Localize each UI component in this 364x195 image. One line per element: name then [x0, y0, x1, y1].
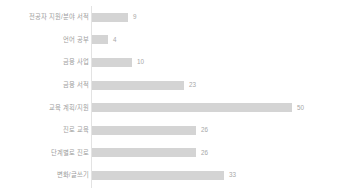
category-label: 언어 공부 — [0, 36, 89, 44]
bar-rows: 전공자 지원/분야 서적 9 언어 공부 4 금융 사업 10 — [0, 6, 364, 187]
bar — [92, 13, 128, 22]
plot-area: 전공자 지원/분야 서적 9 언어 공부 4 금융 사업 10 — [0, 0, 364, 195]
bar-track: 4 — [92, 29, 364, 52]
category-label: 단계별로 진로 — [0, 149, 89, 157]
bar-row: 변화/글쓰기 33 — [0, 164, 364, 187]
bar-track: 33 — [92, 164, 364, 187]
bar — [92, 103, 292, 112]
category-label: 변화/글쓰기 — [0, 171, 89, 179]
bar-track: 26 — [92, 119, 364, 142]
bar-row: 단계별로 진로 26 — [0, 142, 364, 165]
category-label: 교육 계획/지원 — [0, 104, 89, 112]
bar — [92, 58, 132, 67]
bar-value-label: 9 — [133, 13, 137, 21]
bar-value-label: 26 — [201, 126, 208, 134]
bar-row: 전공자 지원/분야 서적 9 — [0, 6, 364, 29]
bar-row: 언어 공부 4 — [0, 29, 364, 52]
bar — [92, 81, 184, 90]
bar-value-label: 10 — [137, 58, 144, 66]
bar — [92, 126, 196, 135]
category-label: 금융 사업 — [0, 58, 89, 66]
bar-chart: 전공자 지원/분야 서적 9 언어 공부 4 금융 사업 10 — [0, 0, 364, 195]
bar-row: 진로 교육 26 — [0, 119, 364, 142]
bar-value-label: 4 — [113, 36, 117, 44]
category-label: 금융 서적 — [0, 81, 89, 89]
bar — [92, 171, 224, 180]
bar-row: 교육 계획/지원 50 — [0, 96, 364, 119]
bar-value-label: 26 — [201, 149, 208, 157]
bar-value-label: 33 — [229, 171, 236, 179]
bar-value-label: 23 — [189, 81, 196, 89]
bar — [92, 148, 196, 157]
bar-track: 50 — [92, 96, 364, 119]
bar-track: 23 — [92, 74, 364, 97]
bar-row: 금융 서적 23 — [0, 74, 364, 97]
bar — [92, 35, 108, 44]
bar-track: 26 — [92, 142, 364, 165]
bar-track: 9 — [92, 6, 364, 29]
category-label: 진로 교육 — [0, 126, 89, 134]
bar-row: 금융 사업 10 — [0, 51, 364, 74]
bar-track: 10 — [92, 51, 364, 74]
category-label: 전공자 지원/분야 서적 — [0, 13, 89, 21]
bar-value-label: 50 — [297, 104, 304, 112]
